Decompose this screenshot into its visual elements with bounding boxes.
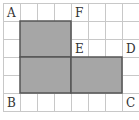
- point-label-e: E: [75, 42, 84, 56]
- shaded-shape: [20, 21, 122, 93]
- grid-diagram: A F E D B C: [0, 0, 139, 120]
- upper-left-rect: [20, 21, 71, 57]
- point-label-f: F: [75, 6, 83, 20]
- point-label-d: D: [126, 42, 136, 56]
- point-label-b: B: [7, 96, 16, 110]
- lower-left-rect: [20, 57, 71, 93]
- lower-right-rect: [71, 57, 122, 93]
- point-label-c: C: [126, 96, 135, 110]
- point-label-a: A: [6, 6, 16, 20]
